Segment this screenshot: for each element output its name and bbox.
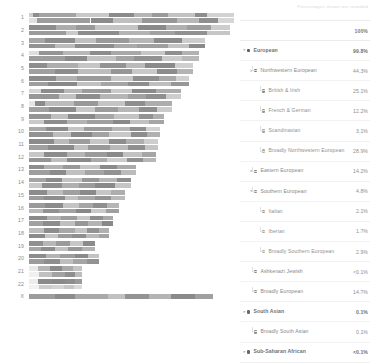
chromosome-strand-a[interactable]	[29, 25, 230, 30]
chromosome-strand-b[interactable]	[29, 56, 199, 61]
ancestry-segment[interactable]	[39, 51, 63, 56]
ancestry-segment[interactable]	[128, 82, 149, 87]
ancestry-segment[interactable]	[76, 94, 100, 99]
ancestry-segment[interactable]	[75, 221, 88, 226]
ancestry-segment[interactable]	[29, 190, 47, 195]
chevron-right-icon[interactable]: ▸	[240, 350, 247, 354]
ancestry-segment[interactable]	[86, 234, 99, 239]
ancestry-segment[interactable]	[43, 241, 55, 246]
ancestry-segment[interactable]	[52, 279, 65, 284]
ancestry-segment[interactable]	[29, 247, 41, 252]
ancestry-segment[interactable]	[70, 241, 83, 246]
ancestry-segment[interactable]	[29, 145, 48, 150]
ancestry-segment[interactable]	[175, 31, 208, 36]
chromosome-row[interactable]: 4	[0, 50, 236, 62]
ancestry-segment[interactable]	[44, 165, 63, 170]
ancestry-segment[interactable]	[147, 132, 160, 137]
ancestry-segment[interactable]	[115, 183, 131, 188]
ancestry-segment[interactable]	[29, 31, 66, 36]
ancestry-segment[interactable]	[95, 25, 138, 30]
ancestry-segment[interactable]	[84, 127, 112, 132]
ancestry-segment[interactable]	[82, 178, 98, 183]
ancestry-segment[interactable]	[134, 56, 161, 61]
ancestry-segment[interactable]	[162, 56, 182, 61]
chromosome-strand-b[interactable]	[29, 82, 189, 87]
composition-row[interactable]: Iberian1.7%	[240, 222, 370, 242]
ancestry-segment[interactable]	[35, 101, 45, 106]
chromosome-strand-b[interactable]	[29, 158, 156, 163]
ancestry-segment[interactable]	[29, 228, 44, 233]
ancestry-segment[interactable]	[131, 132, 147, 137]
ancestry-segment[interactable]	[182, 56, 199, 61]
ancestry-segment[interactable]	[91, 158, 106, 163]
ancestry-segment[interactable]	[43, 221, 60, 226]
ancestry-segment[interactable]	[29, 203, 45, 208]
ancestry-segment[interactable]	[66, 31, 78, 36]
ancestry-segment[interactable]	[85, 152, 107, 157]
ancestry-segment[interactable]	[126, 63, 146, 68]
composition-row[interactable]: Broadly Northwestern European28.9%	[240, 142, 370, 162]
ancestry-segment[interactable]	[150, 31, 175, 36]
chevron-right-icon[interactable]: ▸	[240, 48, 247, 52]
ancestry-segment[interactable]	[45, 234, 58, 239]
ancestry-segment[interactable]	[45, 101, 74, 106]
ancestry-segment[interactable]	[54, 139, 69, 144]
ancestry-segment[interactable]	[29, 132, 53, 137]
chromosome-row[interactable]: 9	[0, 114, 236, 126]
ancestry-segment[interactable]	[58, 234, 72, 239]
ancestry-segment[interactable]	[168, 44, 189, 49]
ancestry-segment[interactable]	[127, 158, 144, 163]
ancestry-segment[interactable]	[46, 127, 68, 132]
chevron-right-icon[interactable]: ▸	[240, 310, 247, 314]
ancestry-segment[interactable]	[78, 63, 99, 68]
chromosome-strand-a[interactable]	[29, 127, 160, 132]
composition-row[interactable]: Broadly South Asian0.1%	[240, 322, 370, 342]
chromosome-strand-a[interactable]	[29, 76, 189, 81]
chromosome-strand-a[interactable]	[29, 203, 119, 208]
ancestry-segment[interactable]	[29, 170, 50, 175]
chromosome-strand-b[interactable]	[29, 183, 132, 188]
ancestry-segment[interactable]	[171, 294, 195, 299]
ancestry-segment[interactable]	[82, 89, 111, 94]
composition-row[interactable]: ▸Southern European4.8%	[240, 182, 370, 202]
chromosome-strand-b[interactable]	[29, 170, 136, 175]
ancestry-segment[interactable]	[39, 13, 76, 18]
ancestry-segment[interactable]	[137, 44, 169, 49]
ancestry-segment[interactable]	[126, 139, 144, 144]
ancestry-segment[interactable]	[146, 127, 160, 132]
ancestry-segment[interactable]	[80, 165, 100, 170]
ancestry-segment[interactable]	[159, 76, 177, 81]
chromosome-row[interactable]: 21	[0, 266, 236, 278]
ancestry-segment[interactable]	[29, 279, 38, 284]
ancestry-segment[interactable]	[87, 56, 116, 61]
chromosome-strand-a[interactable]	[29, 152, 156, 157]
ancestry-segment[interactable]	[63, 51, 90, 56]
ancestry-segment[interactable]	[123, 152, 142, 157]
chromosome-strand-b[interactable]	[29, 44, 205, 49]
ancestry-segment[interactable]	[88, 254, 98, 259]
ancestry-segment[interactable]	[69, 139, 90, 144]
ancestry-segment[interactable]	[75, 279, 82, 284]
ancestry-segment[interactable]	[52, 285, 64, 290]
ancestry-segment[interactable]	[177, 18, 200, 23]
ancestry-segment[interactable]	[29, 196, 44, 201]
ancestry-segment[interactable]	[99, 234, 109, 239]
chromosome-strand-b[interactable]	[29, 145, 158, 150]
ancestry-segment[interactable]	[82, 247, 94, 252]
ancestry-segment[interactable]	[168, 13, 195, 18]
ancestry-segment[interactable]	[76, 13, 109, 18]
ancestry-segment[interactable]	[109, 13, 134, 18]
ancestry-segment[interactable]	[41, 247, 55, 252]
ancestry-segment[interactable]	[29, 259, 44, 264]
ancestry-segment[interactable]	[128, 94, 146, 99]
chromosome-strand-b[interactable]	[29, 31, 230, 36]
ancestry-segment[interactable]	[49, 107, 76, 112]
ancestry-segment[interactable]	[149, 120, 164, 125]
ancestry-segment[interactable]	[87, 259, 99, 264]
ancestry-segment[interactable]	[175, 63, 193, 68]
ancestry-segment[interactable]	[78, 69, 111, 74]
chromosome-strand-b[interactable]	[29, 259, 99, 264]
ancestry-segment[interactable]	[50, 266, 62, 271]
ancestry-segment[interactable]	[109, 139, 126, 144]
ancestry-segment[interactable]	[113, 120, 131, 125]
